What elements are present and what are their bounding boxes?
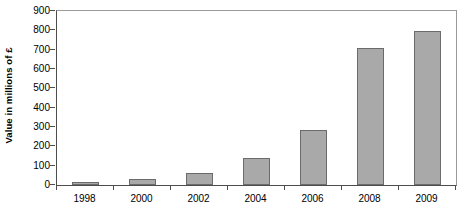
y-tick-label: 200 (33, 140, 50, 151)
plot-area (56, 10, 457, 186)
bar (243, 158, 270, 185)
y-tick-label: 100 (33, 159, 50, 170)
x-tick-mark (284, 185, 285, 190)
y-tick-mark (50, 107, 55, 108)
x-tick-label: 2009 (415, 193, 437, 204)
bar (186, 173, 213, 185)
y-tick-mark (50, 126, 55, 127)
bar (72, 182, 99, 185)
x-tick-label: 2002 (187, 193, 209, 204)
x-tick-mark (170, 185, 171, 190)
y-tick-label: 600 (33, 63, 50, 74)
y-tick-label: 800 (33, 24, 50, 35)
x-tick-mark (227, 185, 228, 190)
x-tick-mark (455, 185, 456, 190)
y-axis-title-label: Value in millions of £ (3, 47, 14, 143)
y-tick-mark (50, 49, 55, 50)
bar (414, 31, 441, 185)
y-tick-label: 700 (33, 43, 50, 54)
y-tick-label: 500 (33, 82, 50, 93)
x-tick-mark (341, 185, 342, 190)
x-tick-mark (56, 185, 57, 190)
bars-layer (57, 11, 456, 185)
y-tick-mark (50, 165, 55, 166)
x-tick-label: 2006 (301, 193, 323, 204)
bar-chart: Value in millions of £ 01002003004005006… (0, 0, 463, 213)
bar (300, 130, 327, 185)
x-tick-label: 2004 (244, 193, 266, 204)
x-tick-mark (113, 185, 114, 190)
y-tick-label: 300 (33, 121, 50, 132)
y-tick-label: 900 (33, 5, 50, 16)
x-tick-mark (398, 185, 399, 190)
bar (129, 179, 156, 185)
y-tick-mark (50, 10, 55, 11)
y-axis-tick-labels: 0100200300400500600700800900 (18, 0, 53, 190)
y-tick-mark (50, 68, 55, 69)
y-tick-mark (50, 87, 55, 88)
x-tick-label: 2008 (358, 193, 380, 204)
y-tick-mark (50, 145, 55, 146)
y-tick-label: 400 (33, 101, 50, 112)
x-tick-label: 1998 (73, 193, 95, 204)
x-tick-label: 2000 (130, 193, 152, 204)
y-axis-title: Value in millions of £ (0, 0, 16, 190)
bar (357, 48, 384, 185)
y-tick-mark (50, 184, 55, 185)
y-tick-mark (50, 29, 55, 30)
